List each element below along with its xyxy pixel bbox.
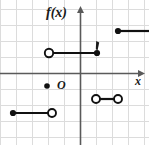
closed-endpoint-dot [94,50,100,56]
closed-endpoint-dot [10,110,16,116]
isolated-point-dot [44,83,50,89]
plot-canvas: f(x) x O [0,0,149,145]
plot-background [0,0,149,145]
open-endpoint-circle [92,95,100,103]
open-endpoint-circle [114,95,122,103]
closed-endpoint-dot [115,28,121,34]
open-endpoint-circle [48,109,56,117]
function-graph-figure: f(x) x O [0,0,149,145]
open-endpoint-circle [45,49,53,57]
origin-label: O [57,78,66,92]
x-axis-label: x [134,74,141,88]
y-axis-label: f(x) [46,5,67,21]
